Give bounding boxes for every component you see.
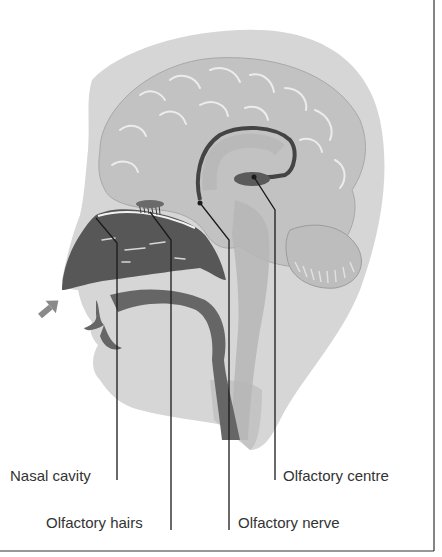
label-olfactory-nerve: Olfactory nerve (238, 514, 340, 531)
label-olfactory-hairs: Olfactory hairs (46, 514, 143, 531)
olfactory-diagram: Nasal cavity Olfactory hairs Olfactory n… (0, 0, 442, 557)
label-olfactory-centre: Olfactory centre (283, 467, 389, 484)
olfactory-centre-region (234, 172, 270, 186)
label-nasal-cavity: Nasal cavity (10, 467, 91, 484)
airflow-arrow-icon (35, 294, 64, 322)
